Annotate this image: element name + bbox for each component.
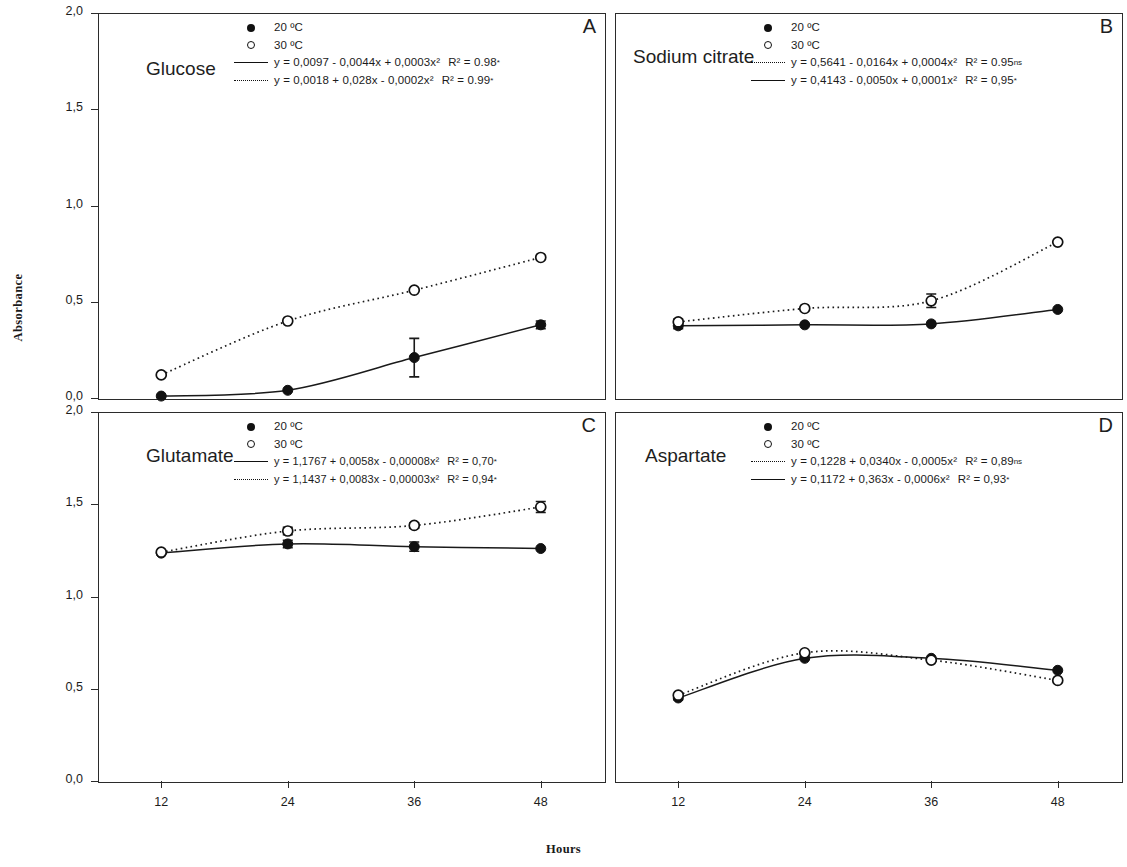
x-axis-tick <box>288 781 289 788</box>
figure-canvas: Absorbance Hours A Glucose 20 ºC 30 ºC y… <box>0 0 1127 867</box>
data-point-30c <box>283 526 293 536</box>
x-axis-tick-label: 12 <box>141 795 181 809</box>
y-axis-tick <box>91 597 98 598</box>
y-axis-tick <box>91 504 98 505</box>
data-point-30c <box>926 655 936 665</box>
data-point-30c <box>536 252 546 262</box>
y-axis-tick <box>91 398 98 399</box>
data-point-30c <box>283 316 293 326</box>
x-axis-tick <box>1058 781 1059 788</box>
x-axis-tick-label: 24 <box>785 795 825 809</box>
x-axis-tick <box>931 781 932 788</box>
panel-glutamate: C Glutamate 20 ºC 30 ºC y = 1,1767 + 0,0… <box>98 412 604 781</box>
y-axis-tick <box>91 781 98 782</box>
fit-curve-20c <box>161 544 541 553</box>
y-axis-tick-label: 0,5 <box>43 293 83 307</box>
fit-curve-30c <box>678 651 1058 695</box>
x-axis-tick-label: 48 <box>521 795 561 809</box>
data-point-20c <box>800 320 810 330</box>
y-axis-tick <box>91 206 98 207</box>
panel-plot-area <box>615 412 1121 781</box>
y-axis-tick-label: 1,5 <box>43 100 83 114</box>
panel-plot-area <box>98 412 604 781</box>
y-axis-tick-label: 1,0 <box>43 197 83 211</box>
y-axis-tick-label: 1,0 <box>43 588 83 602</box>
fit-curve-20c <box>161 325 541 396</box>
x-axis-tick <box>161 781 162 788</box>
data-point-30c <box>1053 675 1063 685</box>
panel-plot-area <box>98 13 604 398</box>
panel-glucose: A Glucose 20 ºC 30 ºC y = 0,0097 - 0,004… <box>98 13 604 398</box>
x-axis-tick <box>678 781 679 788</box>
data-point-30c <box>156 370 166 380</box>
data-point-30c <box>673 690 683 700</box>
x-axis-tick-label: 48 <box>1038 795 1078 809</box>
x-axis-tick-label: 36 <box>911 795 951 809</box>
data-point-20c <box>409 542 419 552</box>
data-point-20c <box>1053 665 1063 675</box>
y-axis-tick-label: 0,0 <box>43 772 83 786</box>
data-point-20c <box>156 391 166 401</box>
data-point-20c <box>409 353 419 363</box>
y-axis-tick <box>91 302 98 303</box>
x-axis-tick <box>541 781 542 788</box>
fit-curve-20c <box>678 655 1058 698</box>
data-point-30c <box>926 296 936 306</box>
data-point-20c <box>536 544 546 554</box>
x-axis-tick <box>414 781 415 788</box>
fit-curve-30c <box>678 242 1058 322</box>
data-point-30c <box>800 303 810 313</box>
x-axis-title: Hours <box>0 842 1127 857</box>
y-axis-tick <box>91 109 98 110</box>
data-point-20c <box>283 539 293 549</box>
y-axis-tick <box>91 689 98 690</box>
y-axis-tick <box>91 13 98 14</box>
y-axis-tick <box>91 412 98 413</box>
panel-plot-area <box>615 13 1121 398</box>
x-axis-tick-label: 12 <box>658 795 698 809</box>
x-axis-tick-label: 36 <box>394 795 434 809</box>
data-point-30c <box>156 547 166 557</box>
fit-curve-30c <box>161 507 541 552</box>
y-axis-tick-label: 0,0 <box>43 389 83 403</box>
y-axis-tick-label: 2,0 <box>43 403 83 417</box>
fit-curve-20c <box>678 309 1058 325</box>
data-point-30c <box>800 648 810 658</box>
data-point-30c <box>409 285 419 295</box>
y-axis-title: Absorbance <box>11 263 26 353</box>
data-point-30c <box>409 520 419 530</box>
data-point-20c <box>536 320 546 330</box>
y-axis-tick-label: 1,5 <box>43 495 83 509</box>
panel-aspartate: D Aspartate 20 ºC 30 ºC y = 0,1228 + 0,0… <box>615 412 1121 781</box>
x-axis-tick-label: 24 <box>268 795 308 809</box>
y-axis-tick-label: 0,5 <box>43 680 83 694</box>
fit-curve-30c <box>161 257 541 374</box>
data-point-30c <box>1053 237 1063 247</box>
data-point-20c <box>1053 304 1063 314</box>
data-point-30c <box>673 317 683 327</box>
y-axis-tick-label: 2,0 <box>43 4 83 18</box>
panel-sodium-citrate: B Sodium citrate 20 ºC 30 ºC y = 0,5641 … <box>615 13 1121 398</box>
x-axis-tick <box>805 781 806 788</box>
data-point-30c <box>536 502 546 512</box>
data-point-20c <box>283 385 293 395</box>
data-point-20c <box>926 319 936 329</box>
